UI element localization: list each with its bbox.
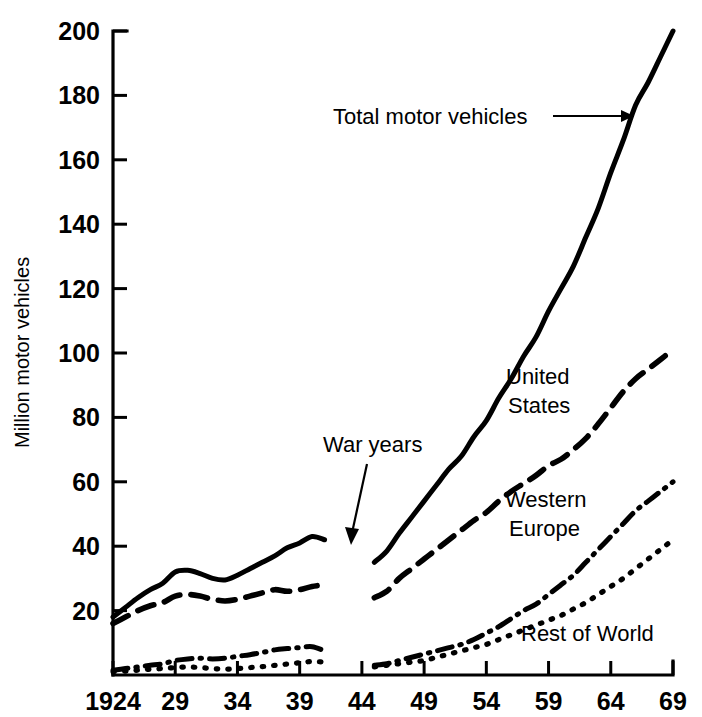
y-tick-label: 200 [58,17,100,45]
war-years-annotation: War years [323,432,422,545]
war-years-arrowhead-icon [345,527,359,545]
x-tick-label: 49 [410,687,438,715]
y-axis-tick-labels: 20406080100120140160180200 [58,17,100,625]
y-tick-label: 20 [72,597,100,625]
series-path-united-states [113,350,673,624]
series-label-us-line2: States [508,393,570,418]
series-label-we-line2: Europe [509,516,580,541]
y-tick-label: 120 [58,275,100,303]
line-chart-svg: 20406080100120140160180200 1924293439444… [0,0,702,717]
x-tick-label: 39 [286,687,314,715]
series-label-western-europe-group: Western Europe [505,487,587,541]
y-tick-label: 140 [58,210,100,238]
x-axis-tick-labels: 1924293439444954596469 [85,687,687,715]
chart-container: 20406080100120140160180200 1924293439444… [0,0,702,717]
series-label-united-states-group: United States [506,364,570,418]
x-tick-label: 54 [472,687,500,715]
series-label-rest-of-world: Rest of World [521,621,654,646]
x-tick-label: 44 [348,687,376,715]
y-tick-label: 160 [58,146,100,174]
x-tick-label: 1924 [85,687,141,715]
x-tick-label: 69 [659,687,687,715]
y-tick-label: 100 [58,339,100,367]
x-tick-label: 64 [597,687,625,715]
y-tick-label: 80 [72,403,100,431]
y-tick-label: 60 [72,468,100,496]
series-label-us-line1: United [506,364,570,389]
war-years-leader-line [352,464,367,533]
war-years-label: War years [323,432,422,457]
y-axis-ticks [113,31,127,611]
total-motor-vehicles-label: Total motor vehicles [333,104,527,129]
x-tick-label: 59 [535,687,563,715]
y-tick-label: 40 [72,532,100,560]
x-tick-label: 34 [224,687,252,715]
y-axis-title: Million motor vehicles [11,257,33,448]
y-tick-label: 180 [58,81,100,109]
series-label-we-line1: Western [505,487,587,512]
x-tick-label: 29 [161,687,189,715]
total-motor-vehicles-annotation: Total motor vehicles [333,104,634,129]
